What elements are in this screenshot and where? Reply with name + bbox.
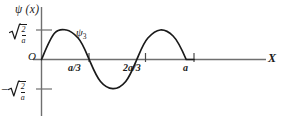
x-tick-label-a-over-3: a/3 <box>68 63 81 73</box>
x-axis-label: X <box>268 52 276 64</box>
radical-sign-positive: 2 a <box>8 23 27 45</box>
radical-sign-negative: 2 a <box>7 80 26 102</box>
y-tick-label-positive: 2 a <box>8 23 27 45</box>
x-tick-label-2a-over-3: 2a/3 <box>123 63 141 73</box>
fraction-denominator: a <box>21 92 25 102</box>
curve-label-subscript: 3 <box>83 32 87 41</box>
plot-canvas <box>0 0 288 121</box>
fraction-2-over-a: 2 a <box>19 81 26 102</box>
fraction-denominator: a <box>22 35 26 45</box>
wavefunction-figure: ψ (x) X O ψ3 2 a − 2 a a/3 <box>0 0 288 121</box>
fraction-numerator: 2 <box>22 26 26 35</box>
x-tick-label-a: a <box>183 63 188 73</box>
fraction-2-over-a: 2 a <box>20 24 27 45</box>
origin-label: O <box>28 51 36 62</box>
y-axis-label: ψ (x) <box>15 4 39 16</box>
curve-label-base: ψ <box>76 26 83 38</box>
y-tick-label-negative: − 2 a <box>1 80 26 102</box>
curve-label: ψ3 <box>76 27 87 41</box>
fraction-numerator: 2 <box>21 83 25 92</box>
